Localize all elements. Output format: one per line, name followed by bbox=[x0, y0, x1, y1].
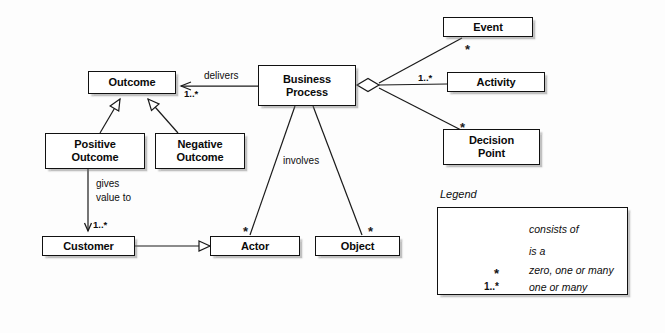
class-label-actor: Actor bbox=[241, 240, 269, 253]
legend-row-consists-of-label: consists of bbox=[529, 223, 579, 235]
class-box-decision-point[interactable]: Decision Point bbox=[443, 129, 540, 165]
class-label-positive-outcome-line2: Outcome bbox=[72, 151, 119, 164]
class-label-negative-outcome-line2: Outcome bbox=[177, 151, 224, 164]
class-label-object: Object bbox=[341, 240, 375, 253]
class-label-decision-point-line2: Point bbox=[478, 147, 505, 160]
class-label-customer: Customer bbox=[63, 240, 114, 253]
edge-involves-actor bbox=[250, 106, 295, 235]
uml-class-diagram: Outcome (open arrow into Outcome right e… bbox=[0, 0, 665, 333]
class-label-negative-outcome-line1: Negative bbox=[177, 138, 222, 151]
edge-is-a-negative-outcome bbox=[148, 99, 178, 133]
legend-asterisk-icon: * bbox=[494, 271, 499, 277]
edge-label-gives-value-to-line2: value to bbox=[96, 192, 131, 203]
class-box-business-process[interactable]: Business Process bbox=[258, 65, 356, 106]
class-label-event: Event bbox=[473, 21, 502, 34]
class-label-business-process-line2: Process bbox=[286, 86, 328, 99]
class-box-customer[interactable]: Customer bbox=[42, 236, 135, 256]
class-label-positive-outcome-line1: Positive bbox=[74, 138, 115, 151]
class-box-object[interactable]: Object bbox=[315, 236, 400, 256]
aggregation-diamond bbox=[357, 79, 379, 92]
edge-involves-object bbox=[313, 106, 362, 235]
class-label-outcome: Outcome bbox=[109, 76, 156, 89]
legend-row-one-or-many-label: one or many bbox=[529, 281, 587, 293]
multiplicity-event-star: * bbox=[465, 47, 470, 53]
multiplicity-actor-star: * bbox=[243, 229, 248, 235]
class-label-business-process-line1: Business bbox=[283, 73, 331, 86]
class-label-decision-point-line1: Decision bbox=[469, 134, 514, 147]
legend-row-zero-one-many-label: zero, one or many bbox=[529, 264, 614, 276]
edge-label-gives-value-to-line1: gives bbox=[96, 178, 119, 189]
multiplicity-activity: 1..* bbox=[418, 72, 432, 83]
legend-row-is-a-label: is a bbox=[529, 245, 545, 257]
edge-consists-of-decision-point bbox=[379, 88, 463, 131]
class-box-positive-outcome[interactable]: Positive Outcome bbox=[45, 133, 145, 169]
edge-consists-of-activity bbox=[379, 84, 447, 85]
class-box-activity[interactable]: Activity bbox=[447, 72, 545, 92]
edge-is-a-positive-outcome bbox=[100, 99, 120, 133]
multiplicity-outcome: 1..* bbox=[184, 88, 198, 99]
class-label-activity: Activity bbox=[477, 76, 516, 89]
class-box-event[interactable]: Event bbox=[443, 17, 533, 37]
multiplicity-customer: 1..* bbox=[93, 219, 107, 230]
multiplicity-object-star: * bbox=[368, 229, 373, 235]
edge-label-involves: involves bbox=[283, 155, 319, 166]
legend-one-or-many-marker: 1..* bbox=[484, 281, 499, 292]
class-box-actor[interactable]: Actor bbox=[210, 236, 300, 256]
edge-label-delivers: delivers bbox=[204, 70, 238, 81]
class-box-outcome[interactable]: Outcome bbox=[88, 71, 176, 94]
class-box-negative-outcome[interactable]: Negative Outcome bbox=[155, 133, 245, 169]
legend-title: Legend bbox=[440, 188, 477, 200]
multiplicity-decision-point-star: * bbox=[460, 125, 465, 131]
